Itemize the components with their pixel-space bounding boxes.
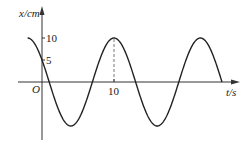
y-axis-arrow-icon <box>40 6 45 15</box>
y-tick-label-5: 5 <box>46 54 52 66</box>
x-axis-arrow-icon <box>231 80 240 85</box>
origin-label: O <box>32 83 40 95</box>
y-axis-label: x/cm <box>18 7 40 19</box>
x-axis-label: t/s <box>226 86 236 98</box>
oscillation-chart: x/cm 10 5 O 10 t/s <box>0 0 250 149</box>
y-tick-label-10: 10 <box>46 32 58 44</box>
x-tick-label-10: 10 <box>108 85 120 97</box>
